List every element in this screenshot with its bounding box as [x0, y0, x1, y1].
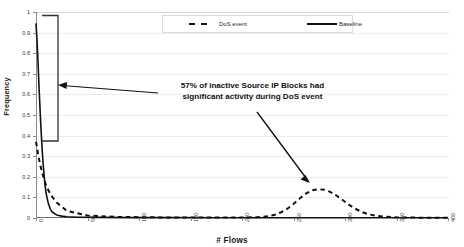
- y-tick-label-0.7: 0.7: [0, 71, 30, 77]
- y-tick-mark-0.7: [33, 74, 36, 75]
- x-tick-label-150: 150: [193, 213, 199, 222]
- x-tick-label-350: 350: [399, 213, 405, 222]
- x-tick-label-400: 400: [450, 213, 456, 222]
- legend-item-baseline[interactable]: Baseline: [307, 21, 362, 27]
- x-tick-mark-350: [397, 218, 398, 221]
- x-tick-label-300: 300: [347, 213, 353, 222]
- series-line-baseline: [36, 23, 448, 217]
- y-tick-label-0.6: 0.6: [0, 91, 30, 97]
- y-tick-label-0.5: 0.5: [0, 112, 30, 118]
- y-tick-mark-0.6: [33, 94, 36, 95]
- annotation-line-1: 57% of inactive Source IP Blocks had: [160, 80, 345, 91]
- y-tick-label-0.4: 0.4: [0, 133, 30, 139]
- x-axis-title: # Flows: [0, 236, 464, 245]
- chart-legend[interactable]: DoS event Baseline: [162, 15, 353, 33]
- y-tick-label-0.9: 0.9: [0, 30, 30, 36]
- x-tick-label-0: 0: [38, 219, 44, 222]
- y-tick-mark-0.5: [33, 115, 36, 116]
- y-tick-label-0.3: 0.3: [0, 153, 30, 159]
- y-tick-label-0.2: 0.2: [0, 174, 30, 180]
- x-tick-mark-0: [36, 218, 37, 221]
- y-tick-mark-0.1: [33, 197, 36, 198]
- x-tick-label-250: 250: [296, 213, 302, 222]
- x-tick-mark-300: [345, 218, 346, 221]
- x-tick-mark-150: [191, 218, 192, 221]
- y-tick-mark-0.2: [33, 177, 36, 178]
- solid-line-swatch-icon: [307, 23, 337, 26]
- x-tick-label-100: 100: [141, 213, 147, 222]
- annotation-arrow-to-bracket: [58, 82, 158, 93]
- y-tick-mark-0.4: [33, 136, 36, 137]
- x-tick-mark-50: [88, 218, 89, 221]
- series-line-dos-event: [36, 142, 448, 218]
- annotation-callout: 57% of inactive Source IP Blocks had sig…: [160, 80, 345, 102]
- chart-figure: Frequency: [0, 0, 464, 247]
- y-tick-label-1: 1: [0, 9, 30, 15]
- x-tick-label-50: 50: [90, 216, 96, 222]
- legend-label-dos-event: DoS event: [219, 21, 247, 27]
- annotation-arrow-to-bump: [257, 112, 310, 183]
- y-tick-label-0.1: 0.1: [0, 194, 30, 200]
- chart-canvas: [0, 0, 464, 247]
- dashed-line-swatch-icon: [188, 21, 214, 27]
- y-tick-mark-0.9: [33, 33, 36, 34]
- legend-item-dos-event[interactable]: DoS event: [188, 21, 247, 27]
- annotation-line-2: significant activity during DoS event: [160, 91, 345, 102]
- x-tick-mark-100: [139, 218, 140, 221]
- x-tick-mark-200: [242, 218, 243, 221]
- annotation-bracket: [42, 16, 58, 142]
- y-tick-mark-0.3: [33, 156, 36, 157]
- y-tick-mark-0.8: [33, 53, 36, 54]
- y-tick-mark-1: [33, 12, 36, 13]
- x-tick-label-200: 200: [244, 213, 250, 222]
- x-tick-mark-250: [294, 218, 295, 221]
- legend-label-baseline: Baseline: [339, 21, 362, 27]
- y-tick-label-0.8: 0.8: [0, 50, 30, 56]
- x-tick-mark-400: [448, 218, 449, 221]
- y-tick-label-0: 0: [0, 215, 30, 221]
